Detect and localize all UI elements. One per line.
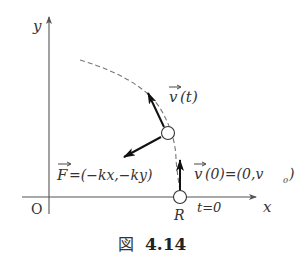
velocity-t-symbol: v	[169, 88, 178, 106]
force-expression: =(−kx,−ky)	[69, 167, 152, 183]
figure-caption: 図 4.14	[118, 234, 187, 254]
particle-start-R	[174, 191, 187, 204]
particle-at-t	[162, 127, 175, 140]
velocity-t-label: v (t)	[169, 85, 198, 106]
start-time-label: t=0	[197, 200, 221, 215]
velocity-0-symbol: v	[194, 165, 203, 183]
caption-prefix: 図	[118, 235, 134, 254]
velocity-0-argument: (0)=(0,v	[205, 166, 263, 182]
velocity-0-label: v (0)=(0,v 0 )	[194, 162, 294, 185]
force-arrow	[124, 137, 161, 157]
force-symbol: F	[56, 166, 68, 184]
force-label: F =(−kx,−ky)	[56, 162, 152, 184]
origin-label: O	[31, 201, 42, 217]
caption-number: 4.14	[145, 234, 187, 254]
start-point-label: R	[173, 207, 185, 223]
diagram-canvas: y x O R t=0 v (t) v (0)=(0,v 0 ) F =(−kx…	[0, 0, 308, 267]
velocity-t-argument: (t)	[180, 88, 198, 106]
velocity-0-subscript: 0	[283, 176, 288, 185]
y-axis-label: y	[32, 17, 42, 35]
x-axis-label: x	[263, 198, 272, 216]
velocity-0-close: )	[288, 166, 294, 182]
